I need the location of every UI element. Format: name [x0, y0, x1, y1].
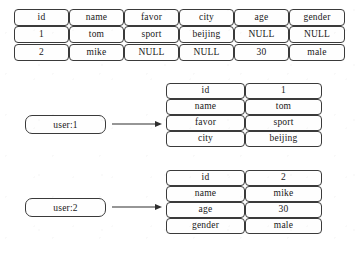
hash-field-cell: age: [166, 202, 245, 218]
table-cell: NULL: [124, 44, 179, 61]
arrow-right-icon: [112, 117, 162, 131]
hash-field-cell: name: [166, 99, 245, 115]
table-header-cell: city: [179, 9, 234, 26]
table-cell: NULL: [234, 26, 289, 43]
hash-field-cell: favor: [166, 115, 245, 131]
key-box-user-1: user:1: [25, 115, 106, 134]
hash-value-cell: 30: [245, 202, 322, 218]
arrow-right-icon: [112, 200, 162, 214]
table-cell: 2: [14, 44, 69, 61]
table-header-cell: age: [234, 9, 289, 26]
hash-value-cell: 2: [245, 170, 322, 186]
table-header-cell: name: [69, 9, 124, 26]
table-cell: male: [289, 44, 345, 61]
table-header-cell: gender: [289, 9, 345, 26]
hash-value-cell: tom: [245, 99, 322, 115]
hash-value-cell: mike: [245, 186, 322, 202]
hash-field-cell: id: [166, 83, 245, 99]
table-cell: tom: [69, 26, 124, 43]
hash-field-cell: id: [166, 170, 245, 186]
table-cell: sport: [124, 26, 179, 43]
key-box-user-2: user:2: [25, 198, 106, 217]
hash-field-cell: city: [166, 131, 245, 147]
table-cell: NULL: [289, 26, 345, 43]
hash-value-cell: male: [245, 218, 322, 234]
hash-value-cell: beijing: [245, 131, 322, 147]
hash-value-cell: sport: [245, 115, 322, 131]
hash-value-cell: 1: [245, 83, 322, 99]
table-cell: 1: [14, 26, 69, 43]
hash-field-cell: gender: [166, 218, 245, 234]
table-cell: mike: [69, 44, 124, 61]
diagram-canvas: id name favor city age gender 1 tom spor…: [0, 0, 359, 258]
table-cell: NULL: [179, 44, 234, 61]
table-cell: beijing: [179, 26, 234, 43]
hash-field-cell: name: [166, 186, 245, 202]
table-header-cell: id: [14, 9, 69, 26]
table-cell: 30: [234, 44, 289, 61]
table-header-cell: favor: [124, 9, 179, 26]
